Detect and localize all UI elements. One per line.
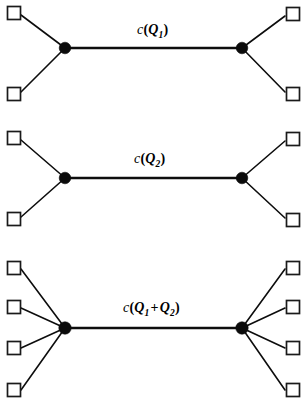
panel-3-left-terminal-4 [8,384,21,397]
panel-1-right-spoke-2 [242,48,285,92]
panel-3-left-terminal-2 [8,301,21,314]
panel-2-right-terminal-2 [287,214,300,227]
panel-3-cost-label: c(Q1+Q2) [123,300,180,318]
panel-3-left-terminal-3 [8,342,21,355]
panel-2-cost-label: c(Q2) [134,151,165,169]
panel-2-left-terminal-1 [8,132,21,145]
panel-2-left-spoke-1 [21,140,65,178]
panel-1-right-terminal-2 [287,88,300,101]
panel-3-right-terminal-3 [287,342,300,355]
panel-1-left-spoke-2 [21,48,65,92]
panel-2-left-hub-node [59,172,71,184]
panel-1-right-spoke-1 [242,16,285,48]
panel-3-right-spoke-1 [242,269,285,328]
panel-3-group [8,262,300,397]
panel-3-label-arg-2: Q [160,300,170,315]
panel-3-label-subscript-1: 1 [145,308,150,318]
panel-2-right-hub-node [236,172,248,184]
panel-3-right-terminal-2 [287,301,300,314]
panel-1-group [8,7,300,101]
panel-1-left-terminal-1 [8,7,21,20]
panel-1-left-spoke-1 [21,15,65,48]
panel-2-group [8,132,300,227]
network-diagram-canvas [0,0,306,405]
panel-2-right-spoke-2 [242,178,285,218]
panel-1-label-arg: Q [148,22,158,37]
panel-1-cost-label: c(Q1) [137,22,168,40]
panel-3-left-terminal-1 [8,262,21,275]
panel-2-label-arg: Q [145,151,155,166]
panel-3-left-hub-node [59,322,71,334]
panel-1-right-hub-node [236,42,248,54]
panel-2-label-close-paren: ) [161,151,166,166]
panel-1-left-hub-node [59,42,71,54]
panel-1-right-terminal-1 [287,8,300,21]
figure-root: c(Q1) c(Q2) c(Q1+Q2) [0,0,306,405]
panel-3-right-hub-node [236,322,248,334]
panel-3-left-spoke-1 [21,269,65,328]
panel-3-label-close-paren: ) [175,300,180,315]
panel-3-right-terminal-1 [287,262,300,275]
panel-3-label-arg-1: Q [134,300,144,315]
panel-2-left-spoke-2 [21,178,65,217]
panel-3-right-terminal-4 [287,384,300,397]
panel-2-right-spoke-1 [242,141,285,178]
panel-1-label-close-paren: ) [164,22,169,37]
panel-2-right-terminal-1 [287,133,300,146]
panel-2-left-terminal-2 [8,213,21,226]
panel-3-label-operator: + [150,300,160,315]
panel-1-left-terminal-2 [8,88,21,101]
